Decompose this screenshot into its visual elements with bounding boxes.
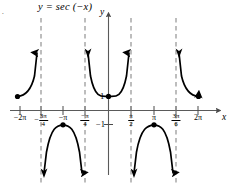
endpoint-dot-pos-2pi	[196, 94, 201, 99]
fraction: π2	[128, 113, 134, 128]
secant-graph-figure: . y = sec (−x) y x	[0, 0, 233, 190]
x-tick-label-3pi-6: 3π6	[171, 113, 180, 128]
vertex-dot-pos-pi-down	[151, 122, 156, 127]
branch-left-arch-down	[44, 125, 82, 173]
endpoint-dot-neg-2pi	[15, 94, 20, 99]
x-tick-label-neg-3pi-4: −3π4	[34, 113, 48, 128]
vertex-dot-neg-pi-down	[60, 122, 65, 127]
y-tick-label-one: 1	[100, 91, 104, 101]
x-tick-label-neg-2pi: −2π	[14, 114, 27, 122]
x-tick-label-pi: π	[152, 114, 156, 122]
x-tick-label-neg-pi: −π	[59, 114, 68, 122]
fraction-denominator: 4	[39, 121, 48, 128]
x-tick-label-2pi: 2π	[194, 114, 202, 122]
arrowhead-up-center-left	[85, 49, 92, 59]
vertex-dot-origin-up	[106, 94, 111, 99]
fraction: 3π4	[39, 113, 48, 128]
branch-right-arch-down	[134, 125, 173, 173]
fraction-denominator: 6	[171, 121, 180, 128]
plot-area	[0, 0, 233, 190]
fraction: 3π6	[171, 113, 180, 128]
branch-right-partial-up	[179, 53, 199, 97]
fraction-denominator: 4	[80, 121, 89, 128]
x-tick-label-neg-pi-4: −π4	[80, 113, 89, 128]
branch-left-partial-up	[18, 53, 38, 97]
fraction: −π4	[80, 113, 89, 128]
fraction-denominator: 2	[128, 121, 134, 128]
arrowhead-up-right-partial	[176, 49, 183, 59]
y-tick-label-neg-one: −1	[96, 119, 105, 129]
x-tick-label-pi-2: π2	[128, 113, 134, 128]
